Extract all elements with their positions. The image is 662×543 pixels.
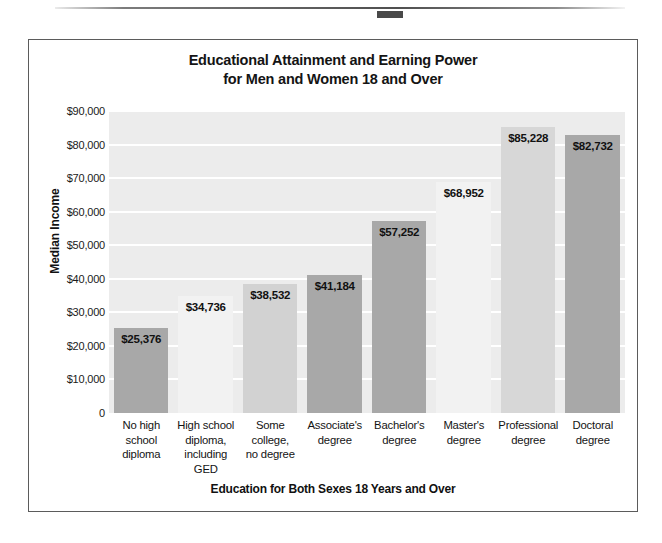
x-axis-category-label-line: school [105, 433, 178, 448]
y-axis-tick-label: $70,000 [35, 172, 105, 184]
bar[interactable] [436, 182, 491, 413]
plot-area: $25,376$34,736$38,532$41,184$57,252$68,9… [109, 111, 625, 413]
bar-value-label: $68,952 [436, 187, 491, 199]
x-axis-category-label-line: No high [105, 418, 178, 433]
chart-title: Educational Attainment and Earning Power… [29, 51, 637, 89]
y-axis-tick-label: $10,000 [35, 373, 105, 385]
bar-value-label: $41,184 [307, 280, 362, 292]
bar-slot[interactable]: $41,184 [307, 111, 362, 413]
bar-slot[interactable]: $82,732 [565, 111, 620, 413]
x-axis-category-label-line: including [170, 447, 243, 462]
bars-layer: $25,376$34,736$38,532$41,184$57,252$68,9… [109, 111, 625, 413]
page-top-rule [55, 7, 625, 9]
bar[interactable] [307, 275, 362, 413]
bar-value-label: $25,376 [114, 333, 169, 345]
x-axis-category-label: Doctoraldegree [557, 418, 630, 447]
x-axis-category-label-line: Some [234, 418, 307, 433]
x-axis-category-labels: No highschooldiplomaHigh schooldiploma,i… [109, 418, 625, 482]
x-axis-category-label: High schooldiploma,includingGED [170, 418, 243, 476]
bar[interactable] [372, 221, 427, 413]
chart-figure-frame: Educational Attainment and Earning Power… [28, 39, 638, 512]
x-axis-category-label-line: High school [170, 418, 243, 433]
x-axis-category-label-line: diploma, [170, 433, 243, 448]
y-axis-tick-label: 0 [35, 407, 105, 419]
y-axis-tick-label: $80,000 [35, 139, 105, 151]
x-axis-category-label-line: Master's [428, 418, 501, 433]
x-axis-category-label-line: Bachelor's [363, 418, 436, 433]
bar-slot[interactable]: $68,952 [436, 111, 491, 413]
bar-value-label: $34,736 [178, 301, 233, 313]
bar-slot[interactable]: $85,228 [501, 111, 556, 413]
bar[interactable] [565, 135, 620, 413]
x-axis-category-label-line: degree [299, 433, 372, 448]
x-axis-title: Education for Both Sexes 18 Years and Ov… [29, 482, 637, 496]
y-axis-tick-label: $20,000 [35, 340, 105, 352]
x-axis-category-label-line: Associate's [299, 418, 372, 433]
x-axis-category-label: Professionaldegree [492, 418, 565, 447]
chart-title-line-1: Educational Attainment and Earning Power [29, 51, 637, 70]
bar-slot[interactable]: $25,376 [114, 111, 169, 413]
bar-slot[interactable]: $34,736 [178, 111, 233, 413]
bar-value-label: $82,732 [565, 140, 620, 152]
chart-title-line-2: for Men and Women 18 and Over [29, 70, 637, 89]
bar-value-label: $85,228 [501, 132, 556, 144]
x-axis-category-label: No highschooldiploma [105, 418, 178, 462]
x-axis-category-label: Somecollege,no degree [234, 418, 307, 462]
y-axis-tick-label: $50,000 [35, 239, 105, 251]
page-top-rule-mark [377, 11, 403, 18]
x-axis-category-label-line: degree [428, 433, 501, 448]
x-axis-category-label-line: GED [170, 462, 243, 477]
x-axis-category-label-line: no degree [234, 447, 307, 462]
bar-slot[interactable]: $57,252 [372, 111, 427, 413]
bar-value-label: $38,532 [243, 289, 298, 301]
x-axis-category-label-line: Professional [492, 418, 565, 433]
bar[interactable] [501, 127, 556, 413]
y-axis-tick-label: $40,000 [35, 273, 105, 285]
x-axis-category-label-line: degree [557, 433, 630, 448]
y-axis-tick-label: $30,000 [35, 306, 105, 318]
bar-value-label: $57,252 [372, 226, 427, 238]
x-axis-category-label-line: diploma [105, 447, 178, 462]
bar[interactable] [243, 284, 298, 413]
x-axis-category-label-line: college, [234, 433, 307, 448]
x-axis-category-label: Bachelor'sdegree [363, 418, 436, 447]
y-axis-tick-label: $90,000 [35, 105, 105, 117]
bar[interactable] [178, 296, 233, 413]
x-axis-category-label: Associate'sdegree [299, 418, 372, 447]
y-axis-tick-labels: $90,000$80,000$70,000$60,000$50,000$40,0… [31, 111, 105, 413]
x-axis-category-label-line: Doctoral [557, 418, 630, 433]
x-axis-category-label-line: degree [492, 433, 565, 448]
x-axis-category-label-line: degree [363, 433, 436, 448]
y-axis-tick-label: $60,000 [35, 206, 105, 218]
x-axis-category-label: Master'sdegree [428, 418, 501, 447]
bar-slot[interactable]: $38,532 [243, 111, 298, 413]
